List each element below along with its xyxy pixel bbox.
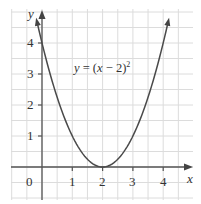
origin-label: 0 bbox=[26, 174, 33, 189]
parabola-chart: y x 0 1 2 3 4 1 2 3 4 y = (x − 2)2 bbox=[0, 0, 201, 204]
x-tick-label-3: 3 bbox=[129, 174, 136, 189]
y-tick-label-2: 2 bbox=[27, 97, 34, 112]
x-tick-label-1: 1 bbox=[69, 174, 76, 189]
equation-label: y = (x − 2)2 bbox=[72, 60, 130, 75]
y-tick-label-1: 1 bbox=[27, 128, 34, 143]
y-axis-arrow-icon bbox=[39, 10, 46, 19]
x-tick-label-2: 2 bbox=[99, 174, 106, 189]
curve-arrow-left-icon bbox=[35, 18, 41, 26]
curve-arrow-right-icon bbox=[164, 18, 170, 26]
x-axis-arrow-icon bbox=[184, 164, 193, 171]
x-tick-label-4: 4 bbox=[160, 174, 167, 189]
y-tick-label-4: 4 bbox=[27, 35, 34, 50]
y-axis-label: y bbox=[26, 6, 34, 21]
x-axis-label: x bbox=[186, 171, 193, 186]
y-tick-label-3: 3 bbox=[27, 66, 34, 81]
